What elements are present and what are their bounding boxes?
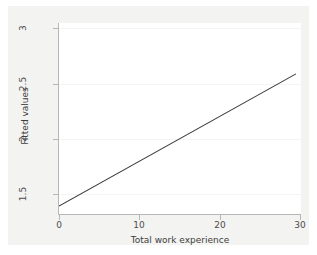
y-tick-mark-2_5: [53, 84, 58, 85]
x-axis-spine: [58, 214, 301, 215]
y-tick-mark-2: [53, 139, 58, 140]
fitted-values-line: [59, 23, 301, 214]
y-axis-title: Fitted values: [20, 61, 30, 171]
plot-region: [59, 23, 301, 214]
x-axis-title: Total work experience: [59, 235, 301, 245]
y-tick-label-1_5: 1.5: [18, 181, 28, 207]
y-tick-mark-1_5: [53, 194, 58, 195]
y-axis-spine: [58, 23, 59, 214]
x-tick-label-20: 20: [205, 220, 235, 230]
y-tick-mark-3: [53, 28, 58, 29]
x-tick-label-30: 30: [285, 220, 315, 230]
x-tick-label-10: 10: [124, 220, 154, 230]
x-tick-label-0: 0: [44, 220, 74, 230]
y-tick-label-3: 3: [18, 15, 28, 41]
graph-region: 3 2.5 2 1.5 0 10 20 30 Total work experi…: [8, 6, 309, 245]
chart-page: 3 2.5 2 1.5 0 10 20 30 Total work experi…: [0, 0, 317, 255]
